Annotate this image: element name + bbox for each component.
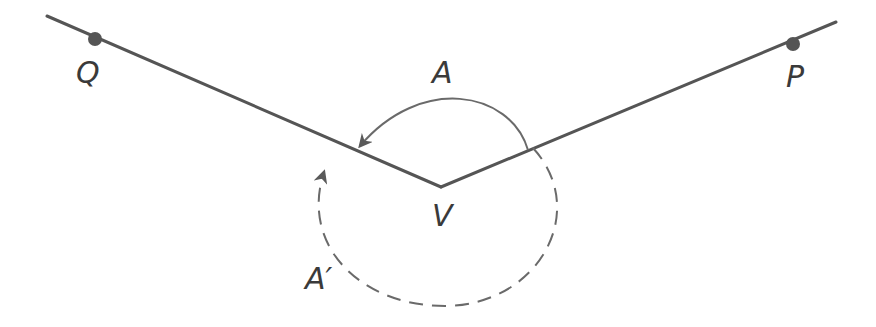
label-p: P (786, 62, 804, 92)
angle-a-arc (360, 99, 528, 150)
point-p-dot (786, 37, 800, 51)
label-v: V (432, 201, 453, 231)
ray-vp (441, 22, 836, 187)
ray-vq (47, 16, 441, 187)
label-q: Q (76, 58, 100, 88)
label-angle-a-prime: A′ (305, 264, 332, 294)
angle-diagram (0, 0, 876, 327)
label-angle-a: A (432, 58, 453, 88)
point-q-dot (88, 32, 102, 46)
